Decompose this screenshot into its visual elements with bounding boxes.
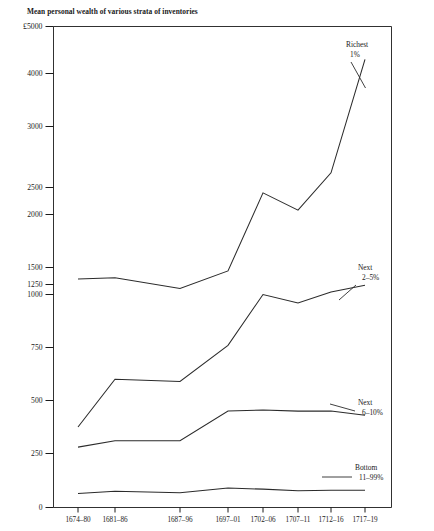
x-tick-label: 1707–11 [286,516,311,524]
chart-plot-area: 02505007501000125015002000250030004000£5… [0,0,434,531]
y-tick-label: 4000 [27,69,42,78]
x-axis-ticks: 1674–801681–861687–961697–011702–061707–… [65,508,378,524]
axis-frame [54,27,392,508]
x-tick-label: 1697–01 [215,516,241,524]
series-line-1 [78,59,365,288]
y-tick-label: 2500 [27,183,42,192]
y-tick-label: 500 [31,396,43,405]
y-tick-label: 750 [31,343,43,352]
y-tick-label: 250 [31,449,43,458]
series-label-range-2: 2–5% [362,273,379,282]
series-label-name-3: Next [358,398,373,407]
x-tick-label: 1712–16 [318,516,344,524]
chart-figure: Mean personal wealth of various strata o… [0,0,434,531]
series-line-4 [78,488,365,493]
series-label-name-2: Next [358,263,373,272]
y-tick-label: £5000 [23,22,43,31]
y-tick-label: 0 [39,503,43,512]
y-axis-ticks: 02505007501000125015002000250030004000£5… [23,22,54,512]
series-line-3 [78,410,365,447]
x-tick-label: 1687–96 [167,516,193,524]
y-tick-label: 1500 [27,263,42,272]
series-label-name-4: Bottom [355,463,377,472]
series-label-range-1: 1% [350,50,360,59]
x-tick-label: 1674–80 [65,516,91,524]
x-tick-label: 1681–86 [102,516,128,524]
y-tick-label: 1000 [27,290,42,299]
series-label-range-3: 6–10% [362,408,383,417]
data-series-lines [78,59,365,493]
x-tick-label: 1717–19 [352,516,378,524]
series-label-range-4: 11–99% [359,473,383,482]
y-tick-label: 3000 [27,122,42,131]
series-label-name-1: Richest [346,40,369,49]
plot-frame [54,27,392,508]
y-tick-label: 2000 [27,210,42,219]
series-leader-line-2 [339,285,356,300]
series-line-2 [78,285,365,427]
x-tick-label: 1702–06 [250,516,276,524]
y-tick-label: 1250 [27,280,42,289]
series-leader-line-3 [330,404,355,411]
series-labels: Richest1%Next2–5%Next6–10%Bottom11–99% [322,40,383,482]
